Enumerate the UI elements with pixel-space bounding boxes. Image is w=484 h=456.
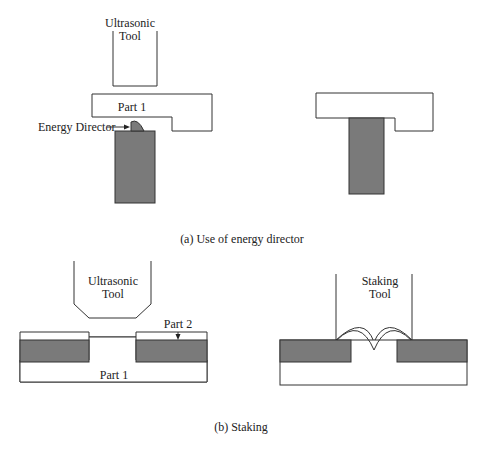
arrow-head-icon bbox=[124, 125, 130, 130]
figure-b-ultrasonic: Ultrasonic Tool Part 2 Part 1 bbox=[20, 261, 207, 382]
ultrasonic-tool-label-1: Ultrasonic bbox=[105, 16, 155, 30]
energy-director-label: Energy Director bbox=[38, 120, 115, 134]
welding-diagram: Ultrasonic Tool Part 1 Energy Director (… bbox=[0, 0, 484, 456]
caption-b: (b) Staking bbox=[214, 420, 268, 434]
ultrasonic-tool-label-b1: Ultrasonic bbox=[88, 274, 138, 288]
part2-shape bbox=[115, 131, 155, 203]
part2-right bbox=[136, 340, 207, 362]
figure-a-before: Ultrasonic Tool Part 1 Energy Director bbox=[38, 16, 212, 203]
figure-a-after bbox=[316, 93, 433, 194]
part2-left-staked bbox=[280, 340, 351, 362]
energy-director-shape bbox=[131, 121, 144, 131]
part2-left bbox=[20, 340, 89, 362]
part2-label: Part 2 bbox=[164, 317, 192, 331]
caption-a: (a) Use of energy director bbox=[180, 232, 304, 246]
figure-b-staking: Staking Tool bbox=[280, 274, 467, 385]
ultrasonic-tool-label-2: Tool bbox=[119, 29, 141, 43]
part2-shape-after bbox=[349, 118, 384, 194]
staking-tool-label-1: Staking bbox=[362, 274, 399, 288]
part2-right-staked bbox=[397, 340, 467, 362]
staking-tool-label-2: Tool bbox=[369, 287, 391, 301]
part1-label: Part 1 bbox=[118, 100, 146, 114]
part1-label-b: Part 1 bbox=[100, 368, 128, 382]
ultrasonic-tool-label-b2: Tool bbox=[102, 287, 124, 301]
